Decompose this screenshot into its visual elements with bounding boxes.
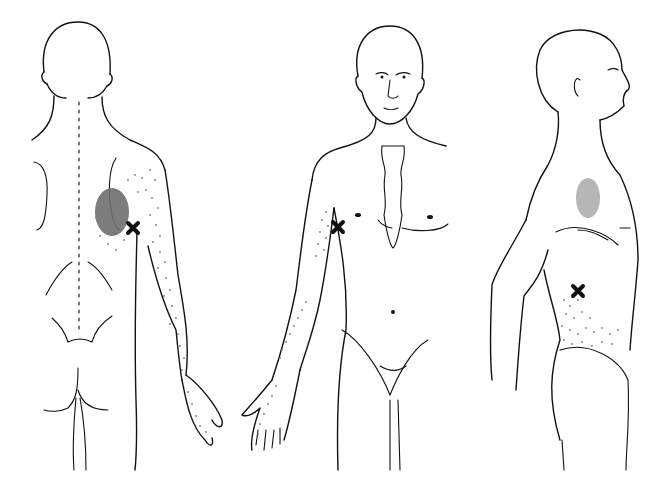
essential-pain-zone — [576, 178, 600, 218]
posterior-view-figure — [0, 0, 230, 484]
trigger-point-x-marker — [573, 286, 583, 296]
posterior-body-outline — [0, 0, 230, 484]
lateral-body-outline — [460, 0, 665, 484]
referral-spillover-dots — [561, 299, 619, 347]
lateral-view-figure — [460, 0, 665, 484]
essential-pain-zone — [95, 188, 129, 236]
trigger-point-x-marker — [128, 223, 138, 233]
anterior-body-outline — [230, 0, 460, 484]
anterior-view-figure — [230, 0, 460, 484]
